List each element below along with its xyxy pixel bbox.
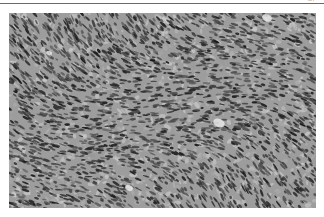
histology-micrograph — [9, 13, 316, 208]
micrograph-canvas — [9, 13, 316, 208]
header-rule — [0, 3, 324, 4]
page-number: 37 — [308, 0, 316, 3]
